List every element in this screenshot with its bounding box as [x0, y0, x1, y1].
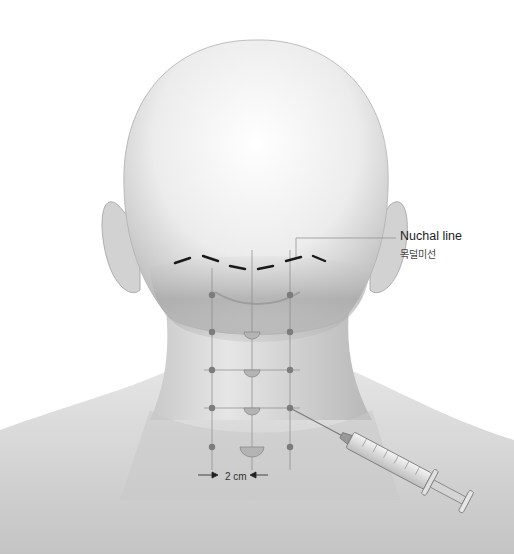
nuchal-line-label-korean: 목덜미선 [400, 246, 436, 261]
head-neck-illustration [0, 0, 514, 554]
spacing-label: 2 cm [225, 471, 247, 482]
nuchal-line-label: Nuchal line [400, 229, 462, 243]
